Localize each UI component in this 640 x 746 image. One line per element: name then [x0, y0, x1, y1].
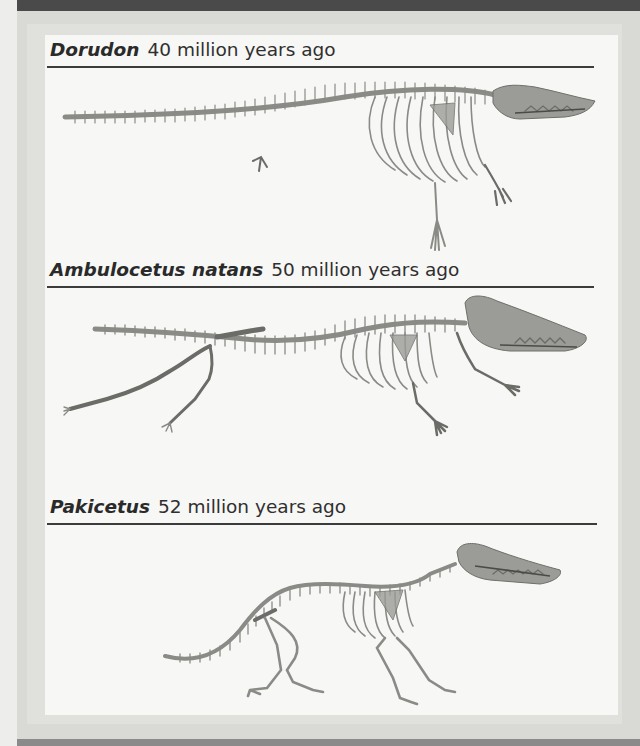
- heading-rule: [47, 286, 594, 288]
- section-heading: Ambulocetus natans50 million years ago: [50, 257, 459, 283]
- heading-rule: [47, 523, 597, 525]
- page-edge: [0, 0, 17, 746]
- bottom-bar: [17, 739, 640, 746]
- age-label: 52 million years ago: [158, 496, 346, 517]
- top-bar: [17, 0, 640, 11]
- pakicetus-skeleton-illustration: [45, 530, 618, 720]
- heading-rule: [47, 66, 594, 68]
- age-label: 50 million years ago: [271, 259, 459, 280]
- age-label: 40 million years ago: [147, 39, 335, 60]
- section-heading: Pakicetus52 million years ago: [50, 494, 346, 520]
- dorudon-skeleton-illustration: [45, 75, 618, 265]
- whale-evolution-panel: Dorudon40 million years ago: [45, 35, 618, 715]
- genus-name: Ambulocetus natans: [50, 259, 263, 280]
- genus-name: Pakicetus: [50, 496, 150, 517]
- section-heading: Dorudon40 million years ago: [50, 37, 336, 63]
- genus-name: Dorudon: [50, 39, 139, 60]
- ambulocetus-skeleton-illustration: [45, 291, 618, 491]
